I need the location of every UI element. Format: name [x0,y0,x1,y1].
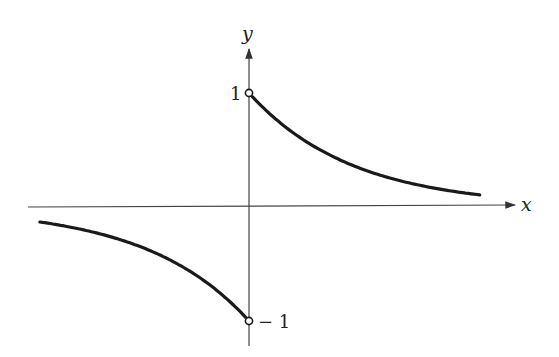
chart-canvas: y x 1 − 1 [0,0,559,357]
curve-right-branch [253,97,480,195]
open-circle-bottom [245,317,252,324]
open-circle-top [245,89,252,96]
y-axis-label: y [241,22,253,44]
tick-label-1: 1 [230,83,241,104]
x-axis [28,205,515,207]
tick-label-neg-1: − 1 [258,311,290,332]
curve-left-branch [40,222,246,317]
x-axis-label: x [521,193,532,215]
